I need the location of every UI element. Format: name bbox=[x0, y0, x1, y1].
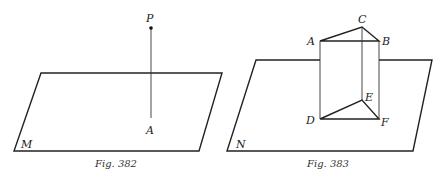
label-f: F bbox=[380, 116, 389, 129]
label-b: B bbox=[381, 35, 390, 48]
caption-fig-382: Fig. 382 bbox=[94, 158, 137, 169]
label-plane-n: N bbox=[235, 138, 246, 151]
plane-m bbox=[14, 73, 222, 151]
label-a: A bbox=[145, 124, 154, 137]
label-plane-m: M bbox=[20, 138, 33, 151]
caption-fig-383: Fig. 383 bbox=[306, 158, 349, 169]
label-e: E bbox=[364, 91, 373, 104]
figure-383: C A B E D F N Fig. 383 bbox=[227, 13, 432, 169]
label-a2: A bbox=[306, 35, 315, 48]
label-c: C bbox=[358, 13, 367, 26]
figure-382: P A M Fig. 382 bbox=[14, 12, 222, 169]
label-p: P bbox=[145, 12, 154, 25]
point-p-dot bbox=[149, 26, 153, 30]
label-d: D bbox=[305, 114, 315, 127]
geometry-figures: P A M Fig. 382 C A B E D F N Fig. 383 bbox=[0, 0, 446, 182]
plane-n bbox=[227, 60, 432, 151]
triangle-abc bbox=[320, 27, 379, 41]
